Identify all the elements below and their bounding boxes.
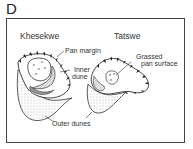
khesekwe-landform [17,51,72,121]
grassed-pan-surface [106,71,118,84]
label-inner-dune-line2: dune [72,73,88,80]
site-title-khesekwe: Khesekwe [20,32,59,41]
label-grassed-line1: Grassed [136,53,162,60]
label-outer-dunes: Outer dunes [52,120,91,127]
site-title-tatswe: Tatswe [114,32,140,41]
inner-pan-surface [28,58,51,81]
label-inner-dune-line1: Inner [74,66,90,73]
tatswe-landform [87,57,149,113]
label-grassed-line2: pan surface [141,60,178,67]
pan-dune-illustration [0,0,193,149]
label-pan-margin: Pan margin [65,47,101,54]
